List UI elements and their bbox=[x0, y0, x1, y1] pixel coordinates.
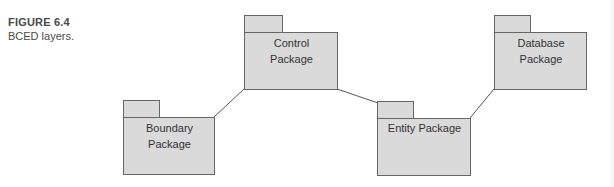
connector-control-entity bbox=[337, 89, 378, 103]
package-tab bbox=[378, 102, 414, 119]
label-line: Database bbox=[495, 35, 587, 51]
page-edge-shadow bbox=[608, 0, 614, 187]
package-tab bbox=[495, 16, 531, 33]
package-entity bbox=[378, 102, 471, 176]
bced-diagram bbox=[0, 0, 614, 187]
package-tab bbox=[124, 101, 160, 118]
label-line: Boundary bbox=[124, 120, 215, 136]
package-tab bbox=[245, 16, 283, 33]
label-line: Package bbox=[245, 51, 338, 67]
label-line: Control bbox=[245, 35, 338, 51]
package-database-label: Database Package bbox=[495, 35, 587, 67]
label-line: Package bbox=[495, 51, 587, 67]
connector-entity-database bbox=[470, 89, 494, 118]
package-boundary-label: Boundary Package bbox=[124, 120, 215, 152]
label-line: Package bbox=[124, 136, 215, 152]
package-entity-label: Entity Package bbox=[378, 120, 471, 136]
connectors bbox=[214, 89, 494, 118]
label-line: Entity Package bbox=[378, 120, 471, 136]
package-control-label: Control Package bbox=[245, 35, 338, 67]
connector-boundary-control bbox=[214, 89, 244, 117]
